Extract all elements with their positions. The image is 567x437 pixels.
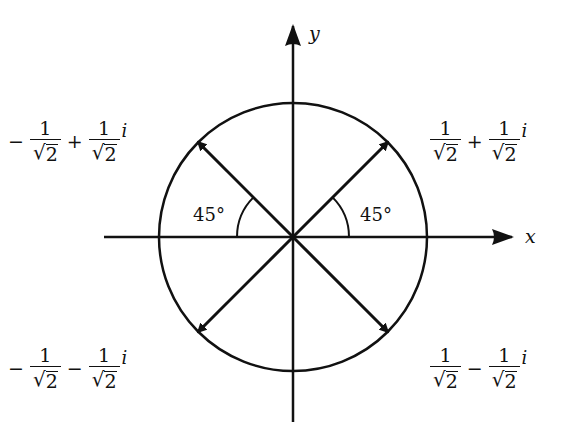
denominator: √2 <box>430 366 461 390</box>
vector-q4 <box>293 237 388 332</box>
square-root: √2 <box>492 368 517 390</box>
radical-sign: √ <box>33 368 46 390</box>
fraction: 1√2 <box>30 345 61 390</box>
numerator: 1 <box>36 345 54 366</box>
numerator: 1 <box>495 118 513 139</box>
x-axis-label: x <box>525 225 536 247</box>
numerator: 1 <box>495 345 513 366</box>
square-root: √2 <box>492 141 517 163</box>
vector-q3 <box>198 237 293 332</box>
denominator: √2 <box>30 139 61 163</box>
radicand: 2 <box>46 371 58 390</box>
radicand: 2 <box>446 144 458 163</box>
radicand: 2 <box>46 144 58 163</box>
denominator: √2 <box>489 139 520 163</box>
sign: − <box>8 130 24 152</box>
fraction: 1√2 <box>489 118 520 163</box>
angle-label-right: 45° <box>360 204 392 225</box>
numerator: 1 <box>436 118 454 139</box>
numerator: 1 <box>36 118 54 139</box>
radical-sign: √ <box>492 141 505 163</box>
radical-sign: √ <box>433 141 446 163</box>
operator: + <box>67 130 83 152</box>
angle-arc-left <box>237 197 253 237</box>
fraction: 1√2 <box>430 345 461 390</box>
label-q3: −1√2−1√2i <box>4 345 127 390</box>
fraction: 1√2 <box>89 345 120 390</box>
label-q1: 1√2+1√2i <box>428 118 527 163</box>
square-root: √2 <box>92 141 117 163</box>
operator: − <box>67 357 83 379</box>
fraction: 1√2 <box>489 345 520 390</box>
square-root: √2 <box>33 368 58 390</box>
radical-sign: √ <box>92 368 105 390</box>
numerator: 1 <box>436 345 454 366</box>
angle-label-left: 45° <box>193 204 225 225</box>
label-q4: 1√2−1√2i <box>428 345 527 390</box>
fraction: 1√2 <box>30 118 61 163</box>
imaginary-unit: i <box>122 120 128 141</box>
radicand: 2 <box>104 144 116 163</box>
denominator: √2 <box>489 366 520 390</box>
denominator: √2 <box>430 139 461 163</box>
denominator: √2 <box>89 139 120 163</box>
square-root: √2 <box>433 368 458 390</box>
numerator: 1 <box>95 345 113 366</box>
y-axis-label: y <box>309 22 320 44</box>
imaginary-unit: i <box>122 347 128 368</box>
imaginary-unit: i <box>522 120 528 141</box>
operator: + <box>467 130 483 152</box>
radicand: 2 <box>505 371 517 390</box>
radical-sign: √ <box>33 141 46 163</box>
denominator: √2 <box>89 366 120 390</box>
denominator: √2 <box>30 366 61 390</box>
square-root: √2 <box>92 368 117 390</box>
radical-sign: √ <box>433 368 446 390</box>
square-root: √2 <box>433 141 458 163</box>
radicand: 2 <box>104 371 116 390</box>
operator: − <box>467 357 483 379</box>
numerator: 1 <box>95 118 113 139</box>
angle-arc-right <box>333 197 349 237</box>
imaginary-unit: i <box>522 347 528 368</box>
square-root: √2 <box>33 141 58 163</box>
fraction: 1√2 <box>89 118 120 163</box>
radical-sign: √ <box>492 368 505 390</box>
label-q2: −1√2+1√2i <box>4 118 127 163</box>
sign: − <box>8 357 24 379</box>
radical-sign: √ <box>92 141 105 163</box>
fraction: 1√2 <box>430 118 461 163</box>
radicand: 2 <box>505 144 517 163</box>
radicand: 2 <box>446 371 458 390</box>
